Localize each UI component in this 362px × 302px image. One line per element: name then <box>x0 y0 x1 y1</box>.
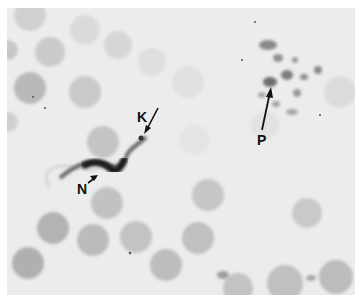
kinetoplast-dot <box>139 136 144 141</box>
label-n-text: N <box>77 181 87 197</box>
label-p-text: P <box>257 132 266 148</box>
label-k-text: K <box>137 109 147 125</box>
micrograph-svg: K N P <box>7 8 355 295</box>
micrograph: K N P <box>7 8 355 295</box>
